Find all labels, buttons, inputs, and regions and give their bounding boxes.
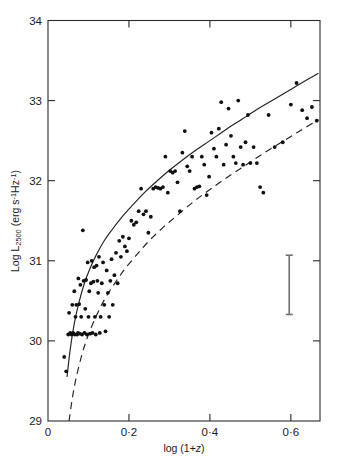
data-point (205, 193, 209, 197)
data-point (185, 164, 189, 168)
data-point (119, 255, 123, 259)
y-tick-label: 30 (29, 335, 42, 347)
data-point (134, 220, 138, 224)
data-point (190, 155, 194, 159)
data-point (127, 236, 131, 240)
data-point (74, 315, 78, 319)
data-point (98, 331, 102, 335)
data-point (236, 99, 240, 103)
data-point (281, 140, 285, 144)
data-point (200, 155, 204, 159)
y-tick-label: 34 (29, 15, 42, 27)
data-point (87, 289, 91, 293)
data-point (305, 116, 309, 120)
data-point (224, 143, 228, 147)
data-point (123, 244, 127, 248)
data-point (255, 161, 259, 165)
data-point (217, 127, 221, 131)
data-point (173, 169, 177, 173)
data-point (241, 163, 245, 167)
data-point (188, 169, 192, 173)
data-point (231, 155, 235, 159)
data-point (85, 333, 89, 337)
data-point (104, 329, 108, 333)
data-point (252, 145, 256, 149)
data-point (84, 278, 88, 282)
data-point (112, 273, 116, 277)
data-point (214, 155, 218, 159)
data-point (166, 191, 170, 195)
data-point (62, 355, 66, 359)
data-point (295, 81, 299, 85)
data-point (121, 235, 125, 239)
data-point (300, 108, 304, 112)
svg-text:log (1+z): log (1+z) (163, 442, 204, 454)
data-point (176, 180, 180, 184)
data-point (149, 215, 153, 219)
x-tick-label: 0·2 (121, 426, 138, 438)
figure-container: 00·20·40·6 293031323334 log (1+z) Log L2… (0, 0, 342, 467)
data-point (95, 279, 99, 283)
data-point (267, 113, 271, 117)
data-point (129, 219, 133, 223)
data-point (105, 269, 109, 273)
data-point (261, 191, 265, 195)
data-point (234, 161, 238, 165)
data-point (210, 131, 214, 135)
data-point (197, 184, 201, 188)
data-point (101, 261, 105, 265)
data-point (289, 103, 293, 107)
data-point (96, 291, 100, 295)
data-point (110, 257, 114, 261)
data-point (212, 147, 216, 151)
data-point (97, 255, 101, 259)
data-point (102, 303, 106, 307)
data-point (91, 331, 95, 335)
data-point (258, 185, 262, 189)
data-point (227, 107, 231, 111)
data-point (239, 145, 243, 149)
data-point (100, 281, 104, 285)
data-point (99, 315, 103, 319)
x-tick-label: 0·4 (202, 426, 219, 438)
data-point (146, 231, 150, 235)
data-point (93, 315, 97, 319)
data-point (107, 315, 111, 319)
x-tick-label: 0·6 (283, 426, 300, 438)
x-tick-label: 0 (45, 426, 51, 438)
data-point (180, 151, 184, 155)
y-tick-label: 32 (29, 175, 42, 187)
y-tick-label: 33 (29, 95, 42, 107)
data-point (67, 311, 71, 315)
data-point (64, 369, 68, 373)
data-point (87, 315, 91, 319)
data-point (244, 140, 248, 144)
data-point (142, 212, 146, 216)
data-point (90, 259, 94, 263)
data-point (219, 100, 223, 104)
data-point (117, 239, 121, 243)
data-point (144, 209, 148, 213)
data-point (310, 105, 314, 109)
plot-background (0, 0, 342, 467)
data-point (83, 307, 87, 311)
y-tick-label: 29 (29, 415, 42, 427)
data-point (70, 303, 74, 307)
data-point (178, 209, 182, 213)
data-point (183, 129, 187, 133)
data-point (161, 185, 165, 189)
data-point (72, 289, 76, 293)
data-point (229, 134, 233, 138)
data-point (106, 291, 110, 295)
data-point (202, 163, 206, 167)
data-point (94, 333, 98, 337)
data-point (114, 251, 118, 255)
data-point (91, 280, 95, 284)
data-point (137, 209, 141, 213)
data-point (246, 113, 250, 117)
data-point (79, 315, 83, 319)
data-point (273, 145, 277, 149)
data-point (315, 119, 319, 123)
data-point (163, 155, 167, 159)
scatter-plot: 00·20·40·6 293031323334 log (1+z) Log L2… (0, 0, 342, 467)
